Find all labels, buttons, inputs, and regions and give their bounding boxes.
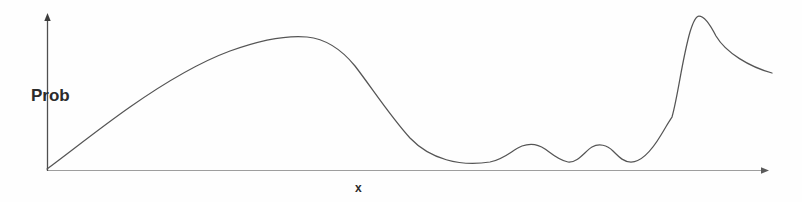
x-axis-label: x [355, 182, 362, 194]
probability-sketch-figure: Prob x [0, 0, 802, 202]
x-axis-arrow-icon [761, 167, 769, 174]
plot-canvas [0, 0, 802, 202]
y-axis-label: Prob [31, 87, 70, 104]
probability-curve [47, 16, 772, 169]
x-axis-group [47, 167, 769, 174]
probability-curve-group [47, 16, 772, 169]
y-axis-arrow-icon [44, 13, 50, 21]
